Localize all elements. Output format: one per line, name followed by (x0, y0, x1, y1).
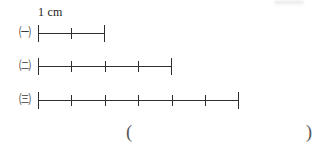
ruler-comparison-worksheet: 1 cm ㈠ ㈡ ㈢ (0, 0, 326, 152)
ruler-tick-end (238, 92, 239, 109)
ruler-tick-inner (71, 95, 72, 106)
unit-length-label: 1 cm (38, 5, 62, 19)
scan-artifact (274, 1, 304, 6)
ruler-tick-start (38, 58, 39, 75)
ruler-tick-inner (138, 61, 139, 72)
row-marker-nieun: ㈡ (17, 59, 32, 74)
answer-close-paren: ) (306, 119, 312, 145)
ruler-tick-start (38, 25, 39, 42)
ruler-tick-start (38, 92, 39, 109)
ruler-tick-end (104, 25, 105, 42)
ruler-tick-inner (105, 95, 106, 106)
row-marker-giyeok: ㈠ (17, 26, 32, 41)
answer-open-paren: ( (126, 119, 132, 145)
ruler-tick-inner (71, 61, 72, 72)
ruler-tick-inner (138, 95, 139, 106)
ruler-tick-inner (71, 28, 72, 39)
row-marker-digeut: ㈢ (17, 93, 32, 108)
ruler-tick-inner (172, 95, 173, 106)
answer-blank[interactable]: ( ) (126, 119, 312, 145)
ruler-tick-inner (205, 95, 206, 106)
ruler-tick-inner (105, 61, 106, 72)
ruler-tick-end (171, 58, 172, 75)
